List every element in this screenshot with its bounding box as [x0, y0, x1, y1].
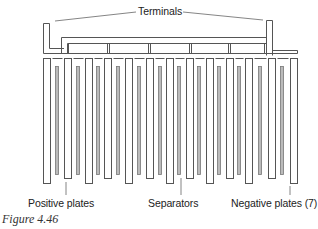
- positive-plates-label: Positive plates: [28, 197, 94, 209]
- left-terminal: [44, 24, 50, 54]
- negative-bus-bar: [44, 49, 298, 54]
- separators-label: Separators: [148, 197, 198, 209]
- right-terminal: [267, 21, 273, 56]
- negative-plates-label: Negative plates (7): [231, 197, 317, 209]
- positive-bus-bar: [62, 38, 267, 54]
- terminals-label: Terminals: [138, 5, 182, 17]
- terminals-leader-right: [183, 12, 263, 20]
- positive-straps: [69, 44, 265, 54]
- figure-caption: Figure 4.46: [2, 212, 58, 227]
- terminals-leader-left: [55, 12, 136, 21]
- battery-plate-diagram: [0, 0, 318, 229]
